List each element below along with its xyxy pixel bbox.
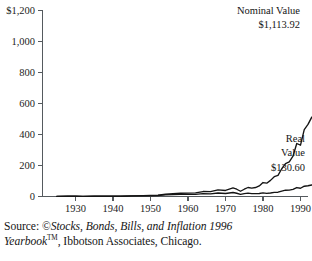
real-value-annotation: Real Value $130.60 [271, 133, 305, 173]
y-tick-label-400: 400 [19, 129, 35, 140]
y-tick-label-200: 200 [19, 160, 35, 171]
real-value-annotation-label-line1: Real [286, 133, 305, 144]
x-tick-label-1930: 1930 [65, 203, 86, 214]
source-tail: , Ibbotson Associates, Chicago. [58, 235, 202, 248]
y-axis-tick-labels: $1,200 1,000 800 600 400 200 0 [6, 5, 35, 202]
trademark-icon: TM [47, 235, 58, 243]
y-tick-label-1200: $1,200 [6, 5, 35, 16]
source-note: Source: ©Stocks, Bonds, Bills, and Infla… [4, 219, 310, 250]
x-tick-label-1950: 1950 [140, 203, 161, 214]
nominal-value-annotation-amount: $1,113.92 [258, 19, 300, 30]
real-value-annotation-label-line2: Value [281, 147, 305, 158]
nominal-value-annotation: Nominal Value $1,113.92 [237, 5, 300, 30]
axes-group [43, 10, 309, 197]
nominal-vs-real-line-chart: $1,200 1,000 800 600 400 200 0 1930 1940… [0, 0, 312, 218]
nominal-value-annotation-label: Nominal Value [237, 5, 300, 16]
y-tick-label-800: 800 [19, 67, 35, 78]
copyright-icon: © [42, 220, 51, 233]
x-axis-tick-labels: 1930 1940 1950 1960 1970 1980 1990 [65, 203, 311, 214]
x-axis-ticks [76, 197, 301, 202]
x-tick-label-1970: 1970 [215, 203, 236, 214]
source-title-line1: Stocks, Bonds, Bills, and Inflation 1996 [51, 220, 233, 233]
real-value-annotation-amount: $130.60 [271, 162, 305, 173]
y-tick-label-600: 600 [19, 98, 35, 109]
source-prefix: Source: [4, 220, 42, 233]
x-tick-label-1990: 1990 [290, 203, 311, 214]
x-tick-label-1960: 1960 [178, 203, 199, 214]
nominal-value-line [57, 86, 312, 196]
x-tick-label-1940: 1940 [103, 203, 124, 214]
y-tick-label-0: 0 [30, 191, 35, 202]
y-axis-ticks [38, 11, 43, 197]
source-title-line2: Yearbook [4, 235, 47, 248]
figure-container: $1,200 1,000 800 600 400 200 0 1930 1940… [0, 0, 312, 261]
y-tick-label-1000: 1,000 [11, 36, 35, 47]
x-tick-label-1980: 1980 [253, 203, 274, 214]
real-value-line [57, 182, 312, 197]
